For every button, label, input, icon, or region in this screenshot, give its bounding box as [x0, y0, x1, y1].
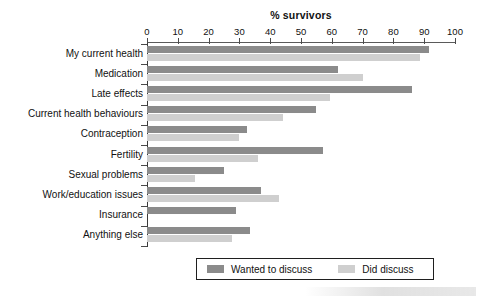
bar-did-discuss — [147, 114, 283, 121]
bar-group — [147, 147, 455, 165]
x-tick-label: 60 — [327, 26, 338, 37]
x-axis-ticks — [147, 36, 456, 44]
scan-artifact — [306, 287, 476, 296]
x-tick — [455, 38, 456, 44]
x-tick-label: 100 — [447, 26, 463, 37]
bar-group — [147, 106, 455, 124]
bar-did-discuss — [147, 94, 330, 101]
bar-group — [147, 46, 455, 64]
bar-did-discuss — [147, 134, 239, 141]
x-tick-label: 30 — [234, 26, 245, 37]
bar-did-discuss — [147, 235, 232, 242]
bar-did-discuss — [147, 54, 420, 61]
y-category-label: Sexual problems — [3, 169, 143, 180]
legend-swatch-did-icon — [338, 265, 355, 273]
bar-group — [147, 187, 455, 205]
bar-wanted-to-discuss — [147, 66, 338, 73]
x-tick-label: 90 — [419, 26, 430, 37]
x-tick-label: 50 — [296, 26, 307, 37]
chart-title: % survivors — [147, 9, 455, 21]
y-category-label: Late effects — [3, 88, 143, 99]
y-category-label: Medication — [3, 68, 143, 79]
y-category-label: Anything else — [3, 229, 143, 240]
y-axis-category-labels: My current healthMedicationLate effectsC… — [0, 44, 143, 246]
y-category-label: Current health behaviours — [3, 108, 143, 119]
x-tick-label: 70 — [357, 26, 368, 37]
plot-area — [147, 44, 455, 246]
chart-legend: Wanted to discuss Did discuss — [196, 258, 434, 280]
legend-swatch-wanted-icon — [207, 265, 224, 273]
bar-did-discuss — [147, 195, 279, 202]
y-category-label: Insurance — [3, 209, 143, 220]
x-tick-label: 40 — [265, 26, 276, 37]
legend-item-did-discuss: Did discuss — [338, 264, 413, 275]
x-tick-label: 80 — [388, 26, 399, 37]
bar-wanted-to-discuss — [147, 106, 316, 113]
bar-group — [147, 207, 455, 225]
bar-wanted-to-discuss — [147, 167, 224, 174]
bar-wanted-to-discuss — [147, 126, 247, 133]
bar-wanted-to-discuss — [147, 227, 250, 234]
bar-wanted-to-discuss — [147, 207, 236, 214]
y-category-label: My current health — [3, 48, 143, 59]
bar-did-discuss — [147, 155, 258, 162]
legend-label-wanted: Wanted to discuss — [231, 264, 312, 275]
bar-group — [147, 66, 455, 84]
y-category-label: Work/education issues — [3, 189, 143, 200]
bar-wanted-to-discuss — [147, 187, 261, 194]
legend-item-wanted-to-discuss: Wanted to discuss — [207, 264, 312, 275]
bar-group — [147, 167, 455, 185]
x-tick-label: 20 — [203, 26, 214, 37]
y-tick — [141, 246, 147, 247]
bar-wanted-to-discuss — [147, 86, 412, 93]
bar-did-discuss — [147, 175, 195, 182]
x-tick-label: 0 — [144, 26, 149, 37]
horizontal-bar-chart: % survivors 0102030405060708090100 My cu… — [0, 0, 478, 297]
bar-wanted-to-discuss — [147, 147, 323, 154]
bar-did-discuss — [147, 74, 363, 81]
y-category-label: Fertility — [3, 149, 143, 160]
bar-group — [147, 86, 455, 104]
y-category-label: Contraception — [3, 128, 143, 139]
x-tick-label: 10 — [173, 26, 184, 37]
bar-group — [147, 227, 455, 245]
bar-wanted-to-discuss — [147, 46, 429, 53]
legend-label-did: Did discuss — [362, 264, 413, 275]
bar-group — [147, 126, 455, 144]
